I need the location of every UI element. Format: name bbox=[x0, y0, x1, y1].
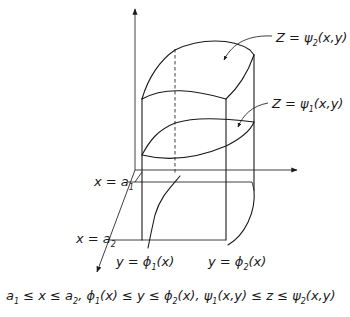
upper-surface-front bbox=[142, 55, 254, 99]
plane-a2-label: x = a2 bbox=[75, 231, 116, 249]
lower-surface-front bbox=[142, 122, 254, 158]
lower-surface-back bbox=[142, 119, 254, 155]
lower-surface-label: Z = ψ1(x,y) bbox=[271, 96, 343, 114]
curve-phi1-label: y = ϕ1(x) bbox=[115, 254, 174, 272]
region-diagram: Z = ψ2(x,y) Z = ψ1(x,y) x = a1 x = a2 y … bbox=[0, 0, 350, 317]
axes bbox=[97, 9, 297, 272]
upper-surface-label: Z = ψ2(x,y) bbox=[275, 30, 347, 48]
curve-phi2-label: y = ϕ2(x) bbox=[207, 254, 266, 272]
curve-phi1 bbox=[148, 176, 180, 248]
solid-region bbox=[135, 41, 254, 248]
a1-left-tick bbox=[135, 172, 142, 182]
upper-surface-pointer bbox=[224, 36, 272, 60]
upper-surface-back bbox=[142, 41, 254, 99]
curve-phi2 bbox=[228, 190, 254, 245]
plane-x-a1-line bbox=[128, 182, 254, 190]
region-conditions: a1 ≤ x ≤ a2, ϕ1(x) ≤ y ≤ ϕ2(x), ψ1(x,y) … bbox=[6, 288, 336, 306]
